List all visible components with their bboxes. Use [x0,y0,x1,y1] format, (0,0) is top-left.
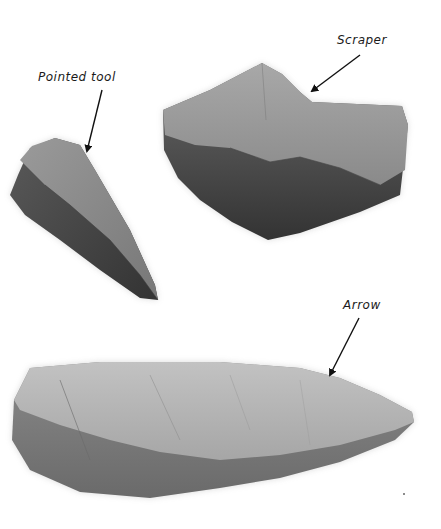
arrow-label: Arrow [343,298,381,312]
pointed-tool-pointer-arrow [87,90,102,151]
stone-tools-figure: Scraper Pointed tool Arrow [0,0,441,529]
arrow-pointer-arrow [330,318,359,375]
arrow-stone [12,362,414,498]
scraper-stone [163,63,408,240]
speck [403,493,405,495]
pointed-tool-label: Pointed tool [38,70,116,84]
scraper-pointer-arrow [312,55,360,91]
scraper-label: Scraper [337,33,387,47]
pointed-tool-stone [10,138,158,300]
